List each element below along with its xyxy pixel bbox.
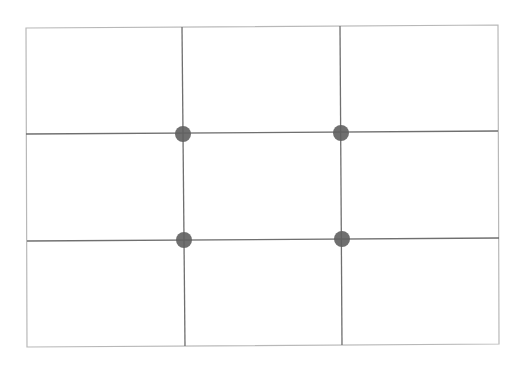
rule-of-thirds-diagram: [0, 0, 528, 370]
power-point-3: [176, 232, 192, 248]
background: [0, 0, 528, 370]
power-point-4: [334, 231, 350, 247]
power-point-2: [333, 125, 349, 141]
power-point-1: [175, 126, 191, 142]
